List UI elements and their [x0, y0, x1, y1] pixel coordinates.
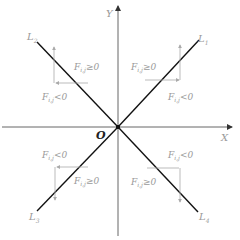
line-l1	[118, 40, 199, 127]
x-axis-label: X	[220, 132, 229, 143]
force-label-q3-vertical: Fi,j≥0	[73, 176, 99, 188]
y-axis-label: Y	[106, 8, 114, 19]
force-label-q1-vertical: Fi,j≥0	[130, 62, 156, 74]
line-label-l3: L3	[28, 211, 40, 224]
force-label-q4-vertical: Fi,j≥0	[130, 177, 156, 189]
origin-label: O	[96, 129, 106, 142]
line-label-l1: L1	[197, 33, 208, 46]
line-label-l2: L2	[26, 31, 38, 44]
line-l2	[37, 42, 118, 127]
origin-point	[116, 125, 120, 129]
line-l4	[118, 127, 198, 212]
force-label-q2-horizontal: Fi,j<0	[41, 92, 67, 104]
force-label-q3-horizontal: Fi,j<0	[41, 150, 67, 162]
force-label-q2-vertical: Fi,j≥0	[73, 62, 99, 74]
line-l3	[37, 127, 118, 211]
line-label-l4: L4	[198, 211, 210, 224]
force-label-q4-horizontal: Fi,j<0	[167, 150, 193, 162]
diagram-canvas: Y X O L2 L1 L3 L4 Fi,j≥0 Fi,j<0 Fi,j≥0 F…	[0, 0, 240, 240]
force-label-q1-horizontal: Fi,j<0	[167, 92, 193, 104]
